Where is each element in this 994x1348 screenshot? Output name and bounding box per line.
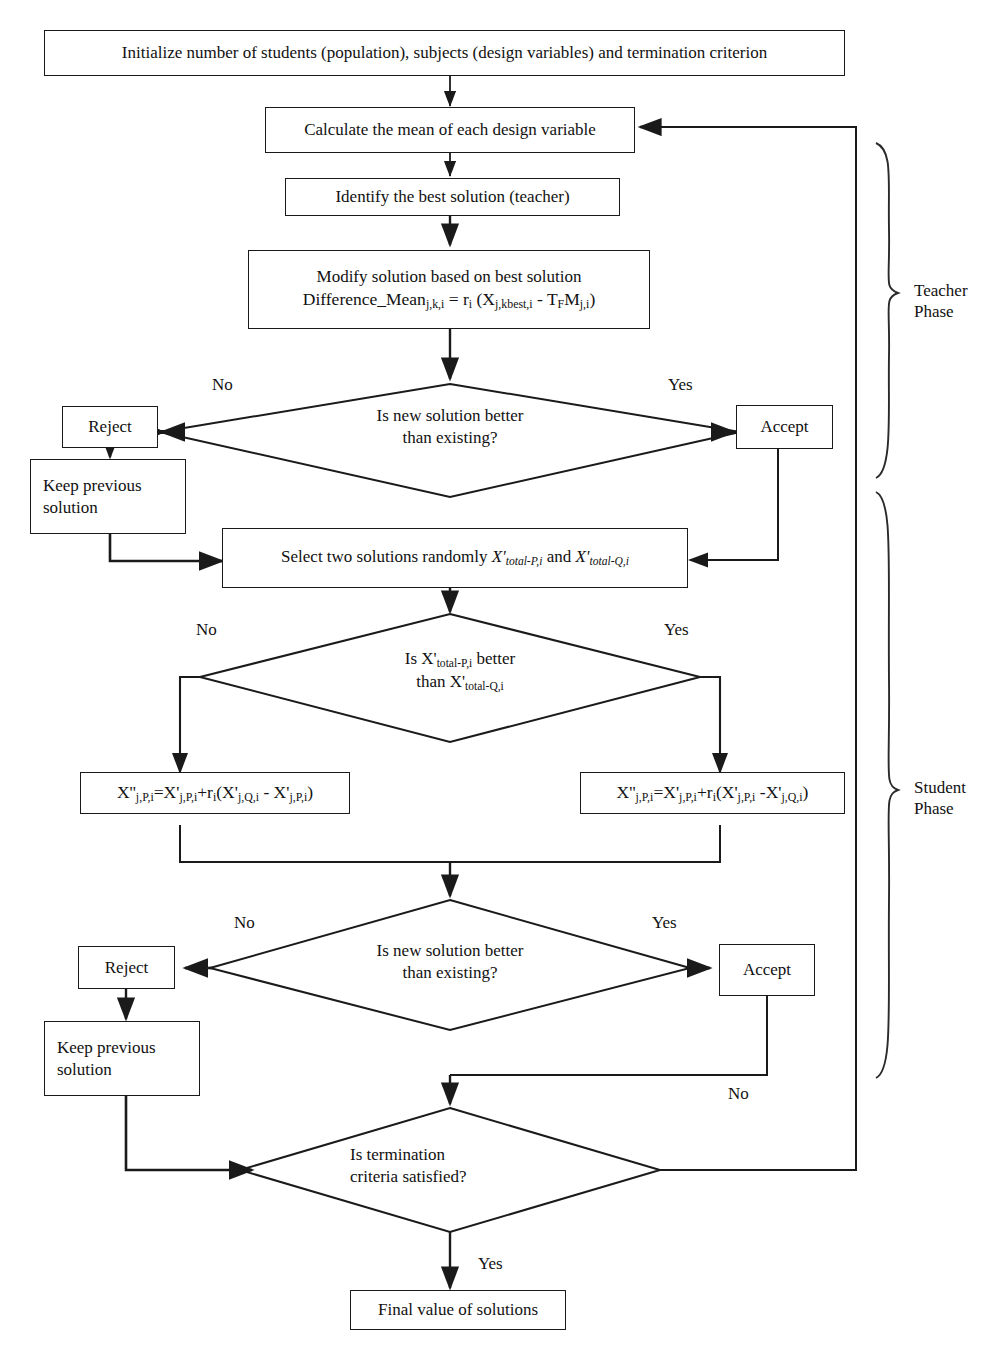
decision-termination-line2: criteria satisfied? (350, 1166, 550, 1188)
node-calculate-mean[interactable]: Calculate the mean of each design variab… (265, 107, 635, 153)
decision-teacher-line1: Is new solution better (330, 405, 570, 427)
edge-label-student-yes: Yes (652, 913, 677, 933)
node-formula-left[interactable]: X''j,P,i=X'j,P,i+ri(X'j,Q,i - X'j,P,i) (80, 772, 350, 814)
select-x2: X' (575, 547, 589, 566)
formula-token: ) (589, 289, 595, 309)
pq-l1-sub: total-P,i (437, 657, 473, 670)
node-identify-best[interactable]: Identify the best solution (teacher) (285, 178, 620, 216)
decision-teacher-line2: than existing? (330, 427, 570, 449)
node-keep-previous-student-line1: Keep previous (57, 1037, 156, 1059)
node-calculate-mean-label: Calculate the mean of each design variab… (304, 119, 596, 141)
decision-teacher-text: Is new solution better than existing? (330, 405, 570, 449)
phase-label-student: Student Phase (914, 777, 966, 820)
pq-l1-post: better (472, 649, 515, 668)
decision-pq-text: Is X'total-P,i better than X'total-Q,i (345, 648, 575, 695)
node-initialize[interactable]: Initialize number of students (populatio… (44, 30, 845, 76)
node-modify-solution[interactable]: Modify solution based on best solution D… (248, 250, 650, 329)
formula-token: (X (472, 289, 495, 309)
node-formula-left-label: X''j,P,i=X'j,P,i+ri(X'j,Q,i - X'j,P,i) (117, 781, 313, 806)
decision-student-text: Is new solution better than existing? (330, 940, 570, 984)
phase-label-teacher: Teacher Phase (914, 280, 968, 323)
decision-student-line1: Is new solution better (330, 940, 570, 962)
edge-label-student-no: No (234, 913, 255, 933)
node-select-two-solutions-label: Select two solutions randomly X'total-P,… (281, 546, 629, 570)
edge-label-teacher-no: No (212, 375, 233, 395)
phase-label-teacher-line2: Phase (914, 301, 968, 322)
edge-label-pq-yes: Yes (664, 620, 689, 640)
phase-label-student-line1: Student (914, 777, 966, 798)
node-accept-teacher[interactable]: Accept (736, 405, 833, 449)
formula-sub: j,k,i (426, 297, 445, 311)
node-keep-previous-teacher[interactable]: Keep previous solution (30, 459, 186, 534)
formula-token: M (564, 289, 580, 309)
node-select-two-solutions[interactable]: Select two solutions randomly X'total-P,… (222, 528, 688, 588)
node-formula-right-label: X''j,P,i=X'j,P,i+ri(X'j,P,i -X'j,Q,i) (617, 781, 809, 806)
node-accept-student-label: Accept (743, 959, 791, 981)
pq-l2-sub: total-Q,i (465, 681, 504, 694)
phase-label-teacher-line1: Teacher (914, 280, 968, 301)
node-initialize-label: Initialize number of students (populatio… (122, 42, 767, 64)
node-modify-solution-formula: Difference_Meanj,k,i = ri (Xj,kbest,i - … (303, 288, 595, 313)
node-keep-previous-student[interactable]: Keep previous solution (44, 1021, 200, 1096)
node-accept-teacher-label: Accept (760, 416, 808, 438)
edge-label-teacher-yes: Yes (668, 375, 693, 395)
node-formula-right[interactable]: X''j,P,i=X'j,P,i+ri(X'j,P,i -X'j,Q,i) (580, 772, 845, 814)
formula-token: = r (444, 289, 468, 309)
decision-termination-line1: Is termination (350, 1144, 550, 1166)
select-x1: X' (492, 547, 506, 566)
select-x2-sub: total-Q,i (589, 555, 628, 568)
select-pre: Select two solutions randomly (281, 547, 492, 566)
edge-label-pq-no: No (196, 620, 217, 640)
node-modify-solution-line1: Modify solution based on best solution (317, 266, 582, 288)
decision-student-line2: than existing? (330, 962, 570, 984)
edge-label-termination-yes: Yes (478, 1254, 503, 1274)
flowchart-canvas: Initialize number of students (populatio… (0, 0, 994, 1348)
phase-label-student-line2: Phase (914, 798, 966, 819)
node-keep-previous-teacher-line1: Keep previous (43, 475, 142, 497)
formula-sub: j,i (580, 297, 590, 311)
node-keep-previous-teacher-line2: solution (43, 497, 98, 519)
node-final-value[interactable]: Final value of solutions (350, 1290, 566, 1330)
edge-label-termination-no: No (728, 1084, 749, 1104)
pq-l2-pre: than X' (416, 672, 465, 691)
node-final-value-label: Final value of solutions (378, 1299, 538, 1321)
node-reject-student-label: Reject (105, 957, 148, 979)
node-reject-student[interactable]: Reject (78, 946, 175, 989)
select-x1-sub: total-P,i (506, 555, 543, 568)
decision-termination-text: Is termination criteria satisfied? (350, 1144, 550, 1188)
node-reject-teacher-label: Reject (88, 416, 131, 438)
pq-l1-pre: Is X' (405, 649, 437, 668)
decision-pq-line2: than X'total-Q,i (345, 671, 575, 694)
node-identify-best-label: Identify the best solution (teacher) (335, 186, 569, 208)
select-and: and (542, 547, 575, 566)
formula-token: - T (533, 289, 558, 309)
formula-token: Difference_Mean (303, 289, 426, 309)
node-keep-previous-student-line2: solution (57, 1059, 112, 1081)
node-reject-teacher[interactable]: Reject (62, 406, 158, 448)
node-accept-student[interactable]: Accept (719, 944, 815, 996)
formula-sub: j,kbest,i (495, 297, 533, 311)
decision-pq-line1: Is X'total-P,i better (345, 648, 575, 671)
